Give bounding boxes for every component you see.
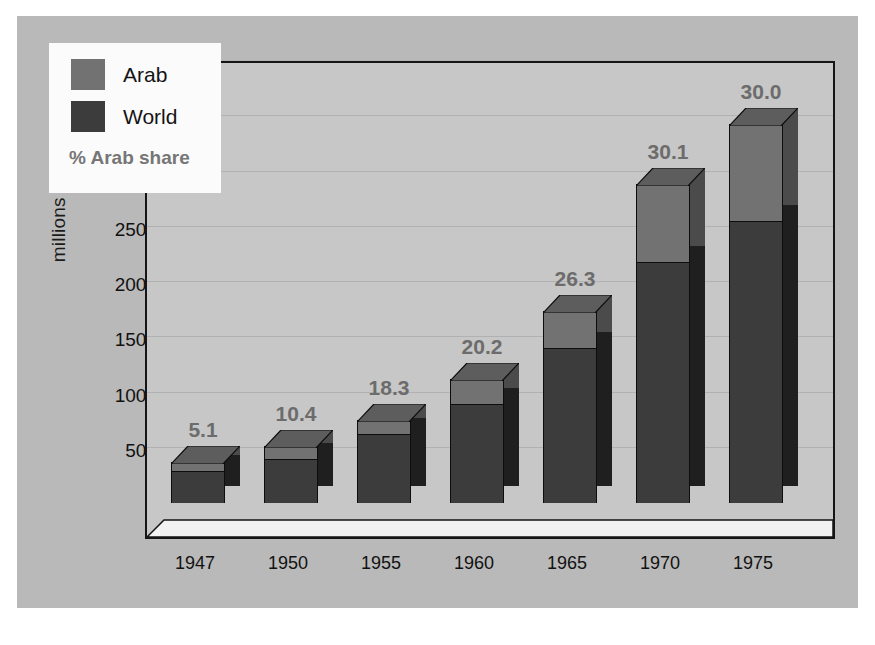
bar-top-face — [171, 446, 240, 464]
bar-column: 10.4 — [264, 448, 316, 503]
bar-top-face — [543, 295, 612, 313]
x-tick-label: 1955 — [336, 553, 426, 574]
legend-swatch-world — [71, 101, 105, 132]
bar-top-face — [264, 430, 333, 448]
x-tick-label: 1965 — [522, 553, 612, 574]
bar-segment-world — [636, 263, 690, 503]
legend-note-arab-share: % Arab share — [69, 147, 190, 169]
bar-segment-world — [171, 472, 225, 503]
bar-value-label: 5.1 — [158, 418, 248, 442]
legend-entry-world: World — [71, 101, 177, 132]
chart-panel: millions of tonnes 400035003000250020001… — [17, 16, 858, 608]
bar-segment-world — [543, 349, 597, 503]
bar-segment-arab — [543, 311, 597, 349]
legend-label-world: World — [123, 105, 177, 129]
bar-value-label: 20.2 — [437, 335, 527, 359]
bar-side-world — [595, 332, 612, 486]
legend-entry-arab: Arab — [71, 59, 167, 90]
bar-value-label: 18.3 — [344, 376, 434, 400]
bar-segment-arab — [636, 184, 690, 263]
bar-side-world — [316, 443, 333, 486]
x-tick-label: 1947 — [150, 553, 240, 574]
bar-segment-arab — [729, 124, 783, 222]
bar-value-label: 26.3 — [530, 267, 620, 291]
bar-side-world — [409, 418, 426, 486]
plot-area: 5.110.418.320.226.330.130.0 — [145, 61, 835, 539]
x-tick-label: 1975 — [708, 553, 798, 574]
bar-segment-arab — [264, 446, 318, 460]
bar-column: 30.0 — [729, 126, 781, 503]
bar-top-face — [636, 168, 705, 186]
bar-column: 26.3 — [543, 313, 595, 503]
bar-top-face — [450, 363, 519, 381]
x-tick-label: 1960 — [429, 553, 519, 574]
gridline — [147, 60, 833, 61]
bar-column: 20.2 — [450, 381, 502, 503]
bar-side-world — [502, 388, 519, 486]
bar-segment-world — [729, 222, 783, 503]
bar-segment-world — [450, 405, 504, 503]
bar-side-world — [688, 246, 705, 486]
bar-segment-arab — [357, 420, 411, 435]
x-tick-label: 1950 — [243, 553, 333, 574]
bar-value-label: 30.1 — [623, 140, 713, 164]
legend-label-arab: Arab — [123, 63, 167, 87]
floor-3d — [147, 503, 833, 537]
legend: Arab World % Arab share — [49, 43, 221, 193]
bar-side-world — [781, 205, 798, 486]
bar-column: 30.1 — [636, 186, 688, 503]
bar-top-face — [729, 108, 798, 126]
x-tick-label: 1970 — [615, 553, 705, 574]
bar-top-face — [357, 404, 426, 422]
bar-segment-world — [357, 435, 411, 503]
bar-value-label: 10.4 — [251, 402, 341, 426]
bar-column: 5.1 — [171, 464, 223, 503]
bar-segment-world — [264, 460, 318, 503]
legend-swatch-arab — [71, 59, 105, 90]
bar-value-label: 30.0 — [716, 80, 806, 104]
bar-segment-arab — [450, 379, 504, 405]
bar-column: 18.3 — [357, 422, 409, 503]
